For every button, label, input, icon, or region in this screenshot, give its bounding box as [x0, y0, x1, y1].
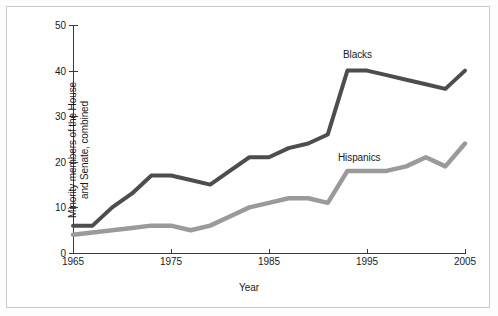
- series-label-hispanics: Hispanics: [338, 152, 380, 163]
- series-label-blacks: Blacks: [343, 49, 372, 60]
- series-plot-area: [0, 0, 498, 316]
- chart-figure: 01020304050 19651975198519952005 Minorit…: [0, 0, 498, 316]
